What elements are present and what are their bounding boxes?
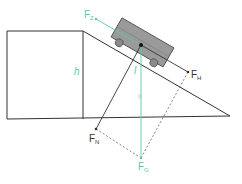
label-fg: FG	[138, 161, 149, 173]
label-l: l	[134, 65, 137, 76]
center-of-mass-dot	[139, 43, 143, 47]
label-fh: FH	[191, 69, 201, 81]
label-fn: FN	[89, 133, 99, 145]
block	[7, 31, 83, 119]
dashed-fn-to-fg	[96, 129, 141, 158]
dashed-fh-to-fg	[141, 72, 188, 158]
parallel-mark: //	[137, 93, 142, 100]
label-fz: FZ	[84, 9, 94, 21]
label-h: h	[74, 66, 80, 77]
ground-line	[7, 116, 230, 119]
force-fn-arrow	[96, 45, 141, 129]
inclined-plane-diagram: h l // FZ FH FN FG	[0, 0, 242, 184]
